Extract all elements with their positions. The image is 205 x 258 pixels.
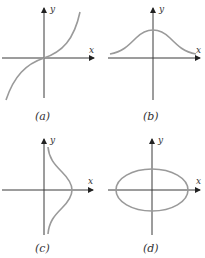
panel-c: y x (c) (2, 135, 93, 255)
panel-caption: (d) (143, 242, 159, 255)
x-axis-label: x (196, 45, 201, 55)
curve-s (6, 12, 80, 100)
panel-b: y x (b) (108, 4, 201, 123)
panel-caption: (c) (35, 242, 50, 255)
x-axis-label: x (88, 176, 93, 186)
figure-canvas: y x (a) y x (b) y x (c) y x (d) (0, 0, 205, 258)
y-axis-label: y (49, 4, 56, 14)
x-axis-label: x (196, 176, 201, 186)
y-axis-label: y (158, 4, 165, 14)
panel-a: y x (a) (2, 4, 94, 123)
panel-caption: (a) (35, 110, 50, 123)
x-axis-label: x (89, 45, 94, 55)
y-axis-label: y (49, 135, 56, 145)
panel-caption: (b) (143, 110, 159, 123)
y-axis-label: y (157, 135, 164, 145)
panel-d: y x (d) (108, 135, 201, 255)
